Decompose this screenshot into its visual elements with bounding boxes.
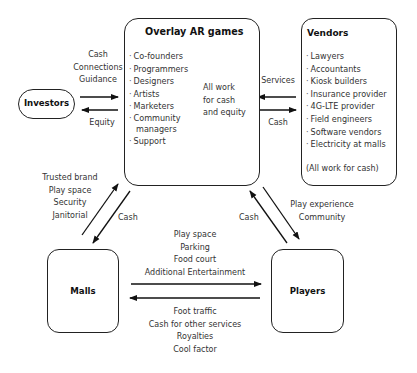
- flow-overlay-to-players: Play experience Community: [288, 199, 356, 224]
- overlay-title: Overlay AR games: [145, 26, 243, 39]
- flow-overlay-to-investors: Equity: [80, 117, 124, 130]
- overlay-member: ·Programmers: [129, 63, 188, 76]
- flow-label: Community: [288, 212, 356, 225]
- players-title: Players: [271, 285, 344, 298]
- vendor-member: ·Lawyers: [306, 50, 387, 63]
- vendor-member: ·Kiosk builders: [306, 75, 387, 88]
- flow-label: Food court: [135, 254, 255, 267]
- malls-title: Malls: [47, 285, 119, 298]
- overlay-member: ·Support: [129, 135, 188, 148]
- flow-malls-to-players: Play space Parking Food court Additional…: [135, 229, 255, 279]
- vendor-member: ·Software vendors: [306, 126, 387, 139]
- flow-investors-to-overlay: Cash Connections Guidance: [70, 49, 126, 87]
- vendors-member-list: ·Lawyers ·Accountants ·Kiosk builders ·I…: [306, 50, 387, 151]
- vendors-note: (All work for cash): [306, 163, 379, 176]
- overlay-member: ·Community: [129, 113, 188, 124]
- overlay-member: managers: [129, 124, 188, 135]
- bracket-note-line: and equity: [203, 107, 246, 120]
- overlay-member: ·Co-founders: [129, 50, 188, 63]
- flow-label: Play experience: [288, 199, 356, 212]
- flow-label: Trusted brand: [30, 172, 110, 185]
- overlay-bracket-note: All work for cash and equity: [203, 82, 246, 120]
- bracket-note-line: for cash: [203, 95, 246, 108]
- flow-label: Parking: [135, 242, 255, 255]
- vendor-member: ·Electricity at malls: [306, 138, 387, 151]
- flow-label: Cool factor: [135, 344, 255, 357]
- overlay-member: ·Artists: [129, 88, 188, 101]
- flow-overlay-to-vendors: Cash: [260, 117, 296, 130]
- flow-label: Foot traffic: [135, 306, 255, 319]
- flow-label: Play space: [30, 185, 110, 198]
- flow-label: Security: [30, 197, 110, 210]
- flow-label: Cash for other services: [135, 319, 255, 332]
- vendor-member: ·Insurance provider: [306, 88, 387, 101]
- flow-label: Cash: [70, 49, 126, 62]
- vendor-member: ·Field engineers: [306, 113, 387, 126]
- bracket-note-line: All work: [203, 82, 246, 95]
- flow-vendors-to-overlay: Services: [256, 75, 300, 88]
- flow-label: Additional Entertainment: [135, 267, 255, 280]
- vendors-title: Vendors: [307, 27, 348, 40]
- flow-label: Royalties: [135, 331, 255, 344]
- overlay-member: ·Marketers: [129, 100, 188, 113]
- flow-players-to-overlay: Cash: [239, 212, 259, 225]
- investors-title: Investors: [18, 97, 75, 110]
- flow-players-to-malls: Foot traffic Cash for other services Roy…: [135, 306, 255, 356]
- flow-label: Play space: [135, 229, 255, 242]
- vendor-member: ·4G-LTE provider: [306, 100, 387, 113]
- flow-label: Guidance: [70, 74, 126, 87]
- vendor-member: ·Accountants: [306, 63, 387, 76]
- overlay-member-list: ·Co-founders ·Programmers ·Designers ·Ar…: [129, 50, 188, 147]
- flow-label: Janitorial: [30, 210, 110, 223]
- overlay-member: ·Designers: [129, 75, 188, 88]
- flow-label: Connections: [70, 62, 126, 75]
- flow-malls-to-overlay: Trusted brand Play space Security Janito…: [30, 172, 110, 222]
- flow-overlay-to-malls: Cash: [118, 212, 138, 225]
